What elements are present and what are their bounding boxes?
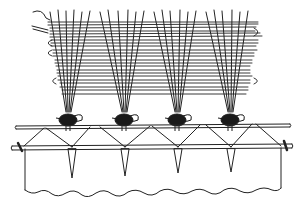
warp-threads [50, 10, 248, 112]
knot-4 [218, 114, 244, 131]
hanging-cloth [25, 148, 281, 197]
weft-tails [32, 11, 50, 33]
weft-rows [48, 22, 262, 94]
weaving-illustration [0, 0, 304, 206]
cloth-points [68, 149, 235, 178]
knot-3 [165, 114, 191, 131]
lower-rod [11, 141, 293, 151]
